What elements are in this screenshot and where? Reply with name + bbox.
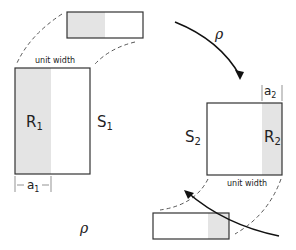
rho-label-top: ρ xyxy=(215,26,223,42)
top-strip xyxy=(67,12,143,38)
left-region-label: R1 xyxy=(26,113,43,132)
a1-label: a1 xyxy=(27,178,39,194)
diagram-canvas xyxy=(0,0,296,250)
a2-label: a2 xyxy=(264,84,276,100)
right-width-label: unit width xyxy=(227,179,267,188)
right-outer-label: S2 xyxy=(185,128,201,147)
rho-label-bottom: ρ xyxy=(80,220,88,236)
left-width-label: unit width xyxy=(35,56,75,65)
arrowhead-icon xyxy=(235,70,244,80)
right-region-label: R2 xyxy=(264,128,281,147)
left-outer-label: S1 xyxy=(97,113,113,132)
bottom-strip xyxy=(153,213,229,239)
